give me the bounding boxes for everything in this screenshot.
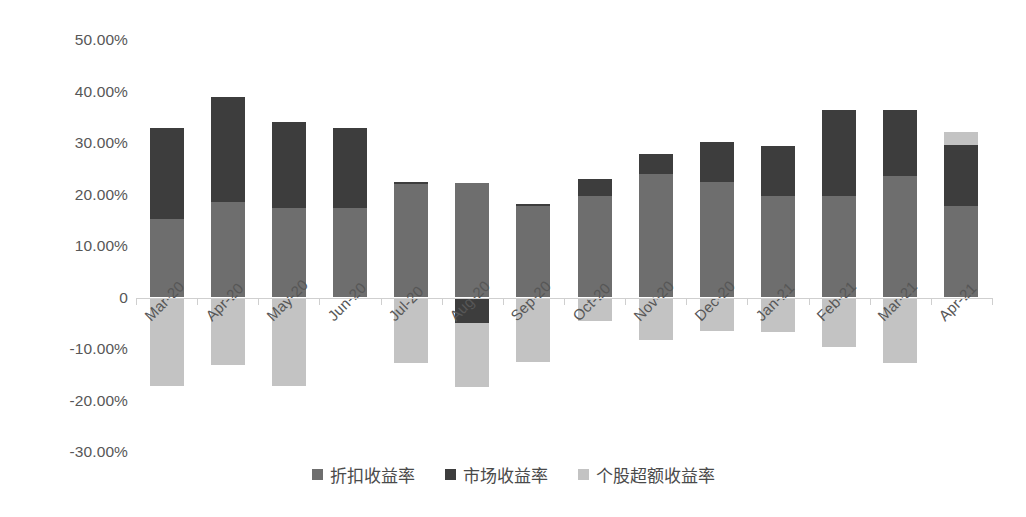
bar-group[interactable] xyxy=(211,40,245,452)
bar-group[interactable] xyxy=(883,40,917,452)
chart-legend: 折扣收益率市场收益率个股超额收益率 xyxy=(0,462,1026,487)
x-axis-tick xyxy=(197,298,198,305)
zero-baseline xyxy=(136,298,992,299)
bar-segment[interactable] xyxy=(516,204,550,206)
bar-group[interactable] xyxy=(944,40,978,452)
bar-segment[interactable] xyxy=(883,176,917,297)
y-axis-tick-label: 50.00% xyxy=(0,31,128,49)
bar-group[interactable] xyxy=(150,40,184,452)
x-axis-tick xyxy=(931,298,932,305)
stacked-bar-chart: 50.00%40.00%30.00%20.00%10.00%0-10.00%-2… xyxy=(0,0,1026,517)
x-axis-tick xyxy=(136,298,137,305)
bar-segment[interactable] xyxy=(700,142,734,182)
y-axis-tick-label: -20.00% xyxy=(0,392,128,410)
x-axis-tick xyxy=(381,298,382,305)
bar-segment[interactable] xyxy=(639,154,673,174)
bar-group[interactable] xyxy=(578,40,612,452)
bar-segment[interactable] xyxy=(150,128,184,219)
x-axis-tick xyxy=(992,298,993,305)
bar-segment[interactable] xyxy=(211,202,245,298)
bar-segment[interactable] xyxy=(578,179,612,195)
x-axis-tick xyxy=(686,298,687,305)
bar-group[interactable] xyxy=(272,40,306,452)
bar-group[interactable] xyxy=(761,40,795,452)
legend-label: 市场收益率 xyxy=(463,462,548,487)
bar-segment[interactable] xyxy=(394,184,428,297)
bar-group[interactable] xyxy=(394,40,428,452)
bar-group[interactable] xyxy=(455,40,489,452)
x-axis-tick xyxy=(442,298,443,305)
y-axis-tick-label: -30.00% xyxy=(0,443,128,461)
x-axis-tick xyxy=(564,298,565,305)
x-axis-tick xyxy=(503,298,504,305)
bars-layer: Mar-20Apr-20May-20Jun-20Jul-20Aug-20Sep-… xyxy=(136,40,992,452)
bar-segment[interactable] xyxy=(394,182,428,185)
legend-label: 折扣收益率 xyxy=(330,462,415,487)
bar-segment[interactable] xyxy=(272,122,306,208)
x-axis-tick xyxy=(870,298,871,305)
bar-segment[interactable] xyxy=(578,196,612,298)
y-axis-tick-label: 40.00% xyxy=(0,83,128,101)
plot-area: Mar-20Apr-20May-20Jun-20Jul-20Aug-20Sep-… xyxy=(136,40,992,452)
legend-item[interactable]: 个股超额收益率 xyxy=(578,462,715,487)
bar-segment[interactable] xyxy=(761,146,795,195)
bar-segment[interactable] xyxy=(944,145,978,206)
bar-segment[interactable] xyxy=(333,128,367,209)
bar-segment[interactable] xyxy=(211,97,245,202)
legend-swatch-stock-excess-return xyxy=(578,469,589,480)
bar-group[interactable] xyxy=(639,40,673,452)
y-axis-tick-label: 30.00% xyxy=(0,134,128,152)
legend-item[interactable]: 折扣收益率 xyxy=(312,462,415,487)
legend-item[interactable]: 市场收益率 xyxy=(445,462,548,487)
legend-swatch-market-return xyxy=(445,469,456,480)
bar-segment[interactable] xyxy=(822,110,856,196)
x-axis-tick xyxy=(747,298,748,305)
bar-group[interactable] xyxy=(333,40,367,452)
bar-segment[interactable] xyxy=(761,196,795,298)
legend-swatch-discount-return xyxy=(312,469,323,480)
legend-label: 个股超额收益率 xyxy=(596,462,715,487)
bar-segment[interactable] xyxy=(883,110,917,177)
bar-group[interactable] xyxy=(822,40,856,452)
y-axis-tick-label: -10.00% xyxy=(0,340,128,358)
y-axis-tick-label: 20.00% xyxy=(0,186,128,204)
bar-segment[interactable] xyxy=(944,132,978,145)
bar-group[interactable] xyxy=(516,40,550,452)
x-axis-tick xyxy=(258,298,259,305)
x-axis-tick xyxy=(809,298,810,305)
y-axis: 50.00%40.00%30.00%20.00%10.00%0-10.00%-2… xyxy=(0,40,128,452)
y-axis-tick-label: 10.00% xyxy=(0,237,128,255)
x-axis-tick xyxy=(625,298,626,305)
y-axis-tick-label: 0 xyxy=(0,289,128,307)
bar-segment[interactable] xyxy=(455,323,489,387)
bar-group[interactable] xyxy=(700,40,734,452)
x-axis-tick xyxy=(319,298,320,305)
